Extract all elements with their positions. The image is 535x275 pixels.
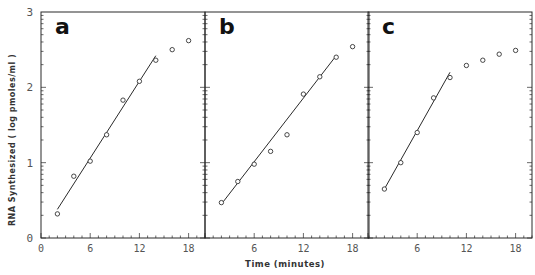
x-tick-label: 0 [38,243,44,254]
x-tick-label: 18 [347,243,359,254]
data-point [170,47,174,51]
data-point [154,58,158,62]
x-tick-label: 12 [460,243,472,254]
x-tick-label: 12 [133,243,145,254]
data-point [137,79,141,83]
data-point [301,92,305,96]
panel-label-b: b [219,14,235,39]
x-axis-label: Time (minutes) [220,259,350,269]
y-tick-label: 0 [26,232,33,245]
data-point [431,96,435,100]
data-point [219,200,223,204]
panel-frame-b [205,12,369,238]
data-point [88,159,92,163]
data-point [186,38,190,42]
data-point [464,63,468,67]
data-point [481,58,485,62]
y-tick-label: 2 [26,81,33,94]
x-tick-label: 18 [183,243,195,254]
panel-label-c: c [382,14,395,39]
data-point [350,44,354,48]
x-tick-label: 6 [414,243,420,254]
panel-label-a: a [55,14,70,39]
data-point [334,55,338,59]
data-point [399,160,403,164]
data-point [72,174,76,178]
data-point [318,75,322,79]
data-point [448,75,452,79]
x-tick-label: 6 [251,243,257,254]
x-tick-label: 18 [510,243,522,254]
panel-frame-a [41,12,205,238]
chart-figure: 0123061218a61218b61218c [0,0,535,275]
y-tick-label: 3 [26,6,33,19]
data-point [104,133,108,137]
data-point [497,52,501,56]
data-point [121,98,125,102]
data-point [55,212,59,216]
data-point [268,149,272,153]
data-point [252,162,256,166]
data-point [513,48,517,52]
panel-frame-c [368,12,532,238]
y-axis-label-text: RNA Synthesized ( log pmoles/ml ) [8,54,17,226]
x-tick-label: 12 [297,243,309,254]
data-point [236,179,240,183]
data-point [415,130,419,134]
y-axis-label: RNA Synthesized ( log pmoles/ml ) [2,40,22,240]
x-tick-label: 6 [87,243,93,254]
y-tick-label: 1 [26,157,33,170]
data-point [285,133,289,137]
data-point [382,187,386,191]
